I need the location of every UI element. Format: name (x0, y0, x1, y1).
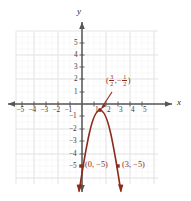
x-tick-label: 5 (143, 107, 147, 114)
vertex-annotation-label: ( 3 2 , − 1 2 ) (106, 74, 130, 88)
y-axis-label: y (77, 7, 81, 16)
x-tick-label: −3 (41, 107, 49, 114)
y-tick-label: 4 (74, 52, 78, 59)
y-tick-label: −3 (69, 138, 77, 145)
point-marker-0-neg5 (79, 164, 82, 167)
y-tick-label: 5 (74, 40, 78, 47)
vertex-frac1-denominator: 2 (109, 80, 114, 87)
y-tick-label: −5 (69, 163, 77, 170)
y-tick-label: −4 (69, 151, 77, 158)
curve-arrow-right (118, 184, 123, 192)
y-tick-label: −2 (69, 126, 77, 133)
y-axis-arrow-top (79, 22, 85, 29)
vertex-fraction-three-halves: 3 2 (109, 74, 114, 88)
vertex-minus-sign: − (117, 77, 122, 85)
point-marker-3-neg5 (116, 164, 119, 167)
y-tick-label: −1 (69, 113, 77, 120)
vertex-frac2-denominator: 2 (122, 80, 127, 87)
x-tick-label: 2 (107, 107, 111, 114)
x-tick-label: −5 (17, 107, 25, 114)
x-tick-label: −2 (53, 107, 61, 114)
y-tick-label: 1 (74, 89, 78, 96)
x-tick-label: 4 (131, 107, 135, 114)
vertex-close-paren: ) (128, 77, 131, 85)
x-tick-label: 3 (119, 107, 123, 114)
x-tick-label: 1 (95, 107, 99, 114)
x-axis-arrow-right (165, 101, 172, 107)
x-axis-arrow-left (8, 101, 15, 107)
x-axis-label: x (177, 98, 181, 107)
point-label-right: (3, −5) (122, 161, 145, 169)
y-tick-label: 3 (74, 64, 78, 71)
point-label-left: (0, −5) (85, 161, 108, 169)
coordinate-plane-graph (0, 0, 191, 201)
x-tick-label: −4 (29, 107, 37, 114)
vertex-fraction-one-half: 1 2 (122, 74, 127, 88)
y-tick-label: 2 (74, 76, 78, 83)
